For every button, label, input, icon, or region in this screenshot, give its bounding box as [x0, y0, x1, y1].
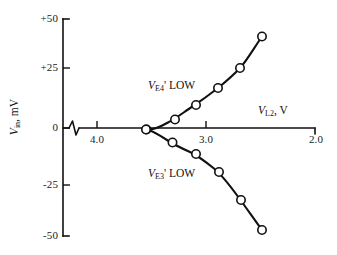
data-point	[192, 101, 200, 109]
y-tick-label-neg50: -50	[22, 229, 58, 241]
x-axis-title-unit: , V	[274, 104, 288, 116]
data-point	[236, 64, 244, 72]
y-tick-label-0: 0	[22, 121, 58, 133]
x-axis-title-sub: L2	[265, 109, 274, 118]
y-axis-title-var: V	[8, 128, 20, 135]
x-axis-ticks	[97, 121, 206, 128]
x-tick-label-3-0: 3.0	[186, 133, 226, 145]
data-point	[168, 138, 176, 146]
series-label-ve4-sub: E4	[155, 84, 164, 93]
y-tick-label-neg25: -25	[22, 178, 58, 190]
x-tick-label-4-0: 4.0	[77, 133, 117, 145]
data-point	[237, 196, 245, 204]
data-point	[215, 168, 223, 176]
data-point	[192, 150, 200, 158]
y-axis-title-sub: in	[13, 122, 22, 128]
x-axis-title-var: V	[258, 104, 265, 116]
series-label-ve4-low: VE4' LOW	[148, 79, 195, 93]
y-axis-title-unit: , mV	[8, 99, 20, 122]
y-axis-title: Vin, mV	[8, 99, 22, 135]
chart-figure: +50 +25 0 -25 -50 4.0 3.0 2.0 VL2, V Vin…	[0, 0, 337, 255]
y-tick-label-50: +50	[22, 12, 58, 24]
data-point	[214, 84, 222, 92]
data-point	[171, 115, 179, 123]
series-label-ve3-var: V	[148, 167, 155, 179]
series-label-ve3-sub: E3	[155, 172, 164, 181]
series-label-ve3-suffix: LOW	[166, 167, 195, 179]
y-axis-title-wrapper: Vin, mV	[4, 82, 22, 152]
x-axis-title: VL2, V	[258, 104, 288, 118]
x-tick-label-2-0: 2.0	[296, 133, 336, 145]
data-point	[142, 125, 150, 133]
data-point	[258, 32, 266, 40]
series-label-ve4-suffix: LOW	[166, 79, 195, 91]
data-point	[258, 226, 266, 234]
y-tick-label-25: +25	[22, 61, 58, 73]
series-label-ve4-var: V	[148, 79, 155, 91]
series-label-ve3-low: VE3' LOW	[148, 167, 195, 181]
